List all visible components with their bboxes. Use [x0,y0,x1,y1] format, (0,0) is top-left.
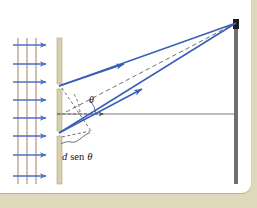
upper-ray [59,23,236,86]
lower-ray-arrow-segment [59,89,142,133]
path-difference-d: d [62,151,68,162]
path-difference-label: dsenθ [62,151,92,162]
theta-label: θ [89,94,94,105]
diffracted-ray-group [59,23,236,133]
barrier-segment-middle [57,89,62,131]
observation-screen [233,19,239,184]
path-difference-segment [62,131,90,137]
diagram-canvas: θ dsenθ [0,0,257,208]
barrier-segment-top [57,38,62,84]
diffraction-figure: θ dsenθ Double-slit diffraction path dif… [0,0,257,208]
path-difference-theta: θ [87,151,92,162]
slit-barrier [57,38,62,184]
incident-wavefront-group [18,38,36,184]
path-difference-brace [61,133,90,144]
lower-ray [59,23,236,133]
screen-bar [234,20,238,184]
path-difference-sen: sen [70,151,85,162]
